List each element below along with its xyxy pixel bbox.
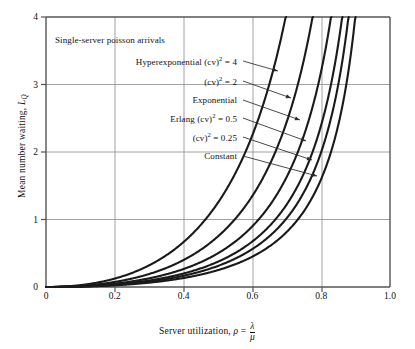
annotation-note: Single-server poisson arrivals [55, 35, 165, 45]
annotation-erlang-0.5-main: Erlang (cv) [170, 114, 212, 124]
annotation-exponential: Exponential [192, 95, 237, 105]
annotation-hyperexponential-4-tail: = 4 [223, 57, 237, 67]
annotation-constant: Constant [204, 151, 237, 161]
annotation-cv-0.25: (cv)2 = 0.25 [193, 131, 237, 142]
annotation-cv-0.25-main: (cv) [193, 133, 208, 143]
annotation-cv-2-tail: = 2 [223, 77, 237, 87]
x-tick-label-1: 0.2 [109, 291, 121, 301]
y-axis-title-prefix: Mean number waiting, [17, 105, 27, 198]
x-tick-label-3: 0.6 [246, 291, 258, 301]
tick-marks-y [41, 17, 46, 220]
x-axis-title-numerator: λ [250, 322, 255, 332]
y-axis-title: Mean number waiting, LQ [17, 66, 29, 226]
x-axis-title: Server utilization, ρ = λμ [0, 322, 415, 342]
x-axis-title-denominator: μ [250, 332, 255, 343]
annotation-cv-0.25-tail: = 0.25 [211, 133, 237, 143]
x-axis-title-equals: = [238, 326, 249, 336]
annotation-erlang-0.5-tail: = 0.5 [216, 114, 237, 124]
y-axis-title-symbol: L [17, 100, 27, 105]
y-tick-label-0: 0 [8, 282, 38, 292]
x-tick-label-0: 0 [44, 291, 49, 301]
x-axis-title-prefix: Server utilization, [159, 326, 233, 336]
x-tick-label-4: 0.8 [315, 291, 327, 301]
y-tick-label-4: 4 [8, 12, 38, 22]
tick-marks-x [115, 287, 322, 292]
x-tick-label-5: 1.0 [384, 291, 396, 301]
annotation-cv-2-main: (cv) [204, 77, 219, 87]
annotation-erlang-0.5: Erlang (cv)2 = 0.5 [170, 112, 237, 123]
queueing-curves-chart [0, 0, 415, 349]
annotation-hyperexponential-4: Hyperexponential (cv)2 = 4 [136, 55, 237, 66]
x-tick-label-2: 0.4 [178, 291, 190, 301]
x-axis-title-fraction: λμ [250, 322, 255, 342]
annotation-cv-2: (cv)2 = 2 [204, 75, 237, 86]
annotation-hyperexponential-4-main: Hyperexponential (cv) [136, 57, 219, 67]
y-axis-title-subscript: Q [21, 94, 29, 99]
